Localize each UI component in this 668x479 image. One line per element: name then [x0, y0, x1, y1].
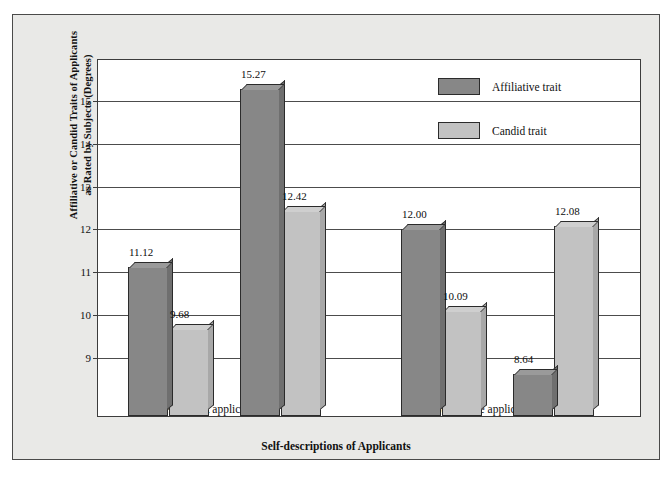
bar-top-face — [282, 206, 326, 212]
bar-top-face — [402, 224, 446, 230]
y-tick-mark — [93, 358, 98, 359]
bar-value-label: 12.00 — [402, 208, 427, 220]
y-tick-label: 14 — [80, 138, 91, 150]
legend-swatch — [438, 78, 480, 95]
bar-value-label: 12.42 — [282, 190, 307, 202]
y-axis-title: Affiliative or Candid Traits of Applican… — [67, 0, 95, 255]
bar-value-label: 11.12 — [129, 246, 153, 258]
bar-value-label: 10.09 — [443, 290, 468, 302]
figure-frame: Affiliative or Candid Traits of Applican… — [12, 14, 660, 460]
bar-top-face — [241, 84, 285, 90]
y-axis-title-line2: as Rated by Subjects (Degrees) — [81, 0, 95, 255]
gridline — [98, 101, 640, 102]
bar-top-face — [514, 369, 558, 375]
bar-affiliative-trait-0 — [128, 267, 168, 416]
chart-figure: Affiliative or Candid Traits of Applican… — [0, 0, 668, 479]
bar-top-face — [555, 221, 599, 227]
bar-affiliative-trait-1 — [240, 89, 280, 416]
bar-value-label: 15.27 — [241, 68, 266, 80]
y-tick-label: 13 — [80, 181, 91, 193]
bar-value-label: 9.68 — [170, 308, 189, 320]
y-tick-label: 12 — [80, 223, 91, 235]
y-tick-label: 10 — [80, 309, 91, 321]
bar-candid-trait-2 — [442, 311, 482, 416]
y-tick-label: 9 — [86, 352, 92, 364]
y-tick-label: 11 — [80, 266, 91, 278]
bar-side-face — [167, 258, 173, 410]
bar-affiliative-trait-2 — [401, 229, 441, 416]
y-tick-label: 15 — [80, 95, 91, 107]
y-tick-mark — [93, 229, 98, 230]
y-tick-mark — [93, 315, 98, 316]
bar-candid-trait-0 — [169, 329, 209, 416]
y-tick-mark — [93, 101, 98, 102]
legend-swatch — [438, 122, 480, 139]
y-tick-mark — [93, 187, 98, 188]
legend-item-affiliative-trait: Affiliative trait — [438, 78, 561, 95]
bar-top-face — [170, 324, 214, 330]
bar-candid-trait-3 — [554, 226, 594, 416]
gridline — [98, 144, 640, 145]
y-tick-mark — [93, 144, 98, 145]
legend-label: Affiliative trait — [492, 81, 561, 93]
bar-affiliative-trait-3 — [513, 374, 553, 416]
bar-top-face — [443, 306, 487, 312]
plot-area: 9101112131415 11.1215.2712.008.649.6812.… — [97, 59, 641, 417]
bar-candid-trait-1 — [281, 211, 321, 416]
bar-top-face — [129, 262, 173, 268]
bar-side-face — [481, 302, 487, 410]
y-axis-title-line1: Affiliative or Candid Traits of Applican… — [67, 0, 81, 255]
gridline — [98, 187, 640, 188]
bar-side-face — [593, 217, 599, 410]
bar-side-face — [279, 80, 285, 410]
bar-side-face — [440, 220, 446, 410]
bar-side-face — [320, 202, 326, 410]
y-tick-mark — [93, 272, 98, 273]
x-axis-title: Self-descriptions of Applicants — [13, 440, 659, 452]
legend-label: Candid trait — [492, 125, 547, 137]
legend-item-candid-trait: Candid trait — [438, 122, 547, 139]
bar-side-face — [208, 320, 214, 410]
bar-value-label: 8.64 — [514, 353, 533, 365]
bar-value-label: 12.08 — [555, 205, 580, 217]
